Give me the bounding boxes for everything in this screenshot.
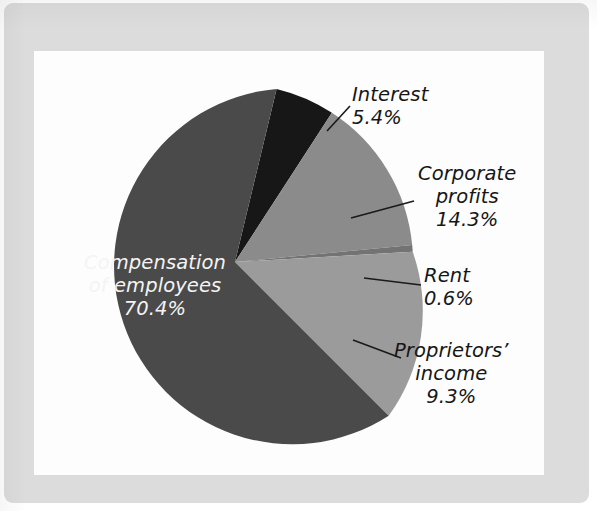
slice-label-proprietors-income: Proprietors’ income 9.3%	[394, 339, 509, 408]
slice-label-corporate-profits: Corporate profits 14.3%	[418, 162, 516, 231]
slice-label-rent: Rent 0.6%	[424, 264, 474, 310]
slice-label-compensation-of-employees: Compensation of employees 70.4%	[60, 251, 250, 320]
slice-label-interest: Interest 5.4%	[352, 83, 428, 129]
scanned-page: Interest 5.4% Corporate profits 14.3% Re…	[0, 0, 597, 511]
